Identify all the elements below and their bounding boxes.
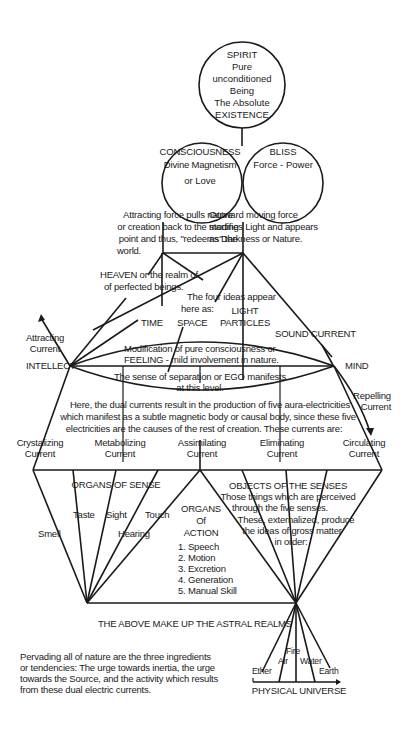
spirit-circle: SPIRIT Pure unconditioned Being The Abso… [199,42,285,128]
text-line: which manifest as a subtle magnetic body… [59,411,356,422]
pervading-text: Pervading all of nature are the three in… [20,651,218,695]
repelling-current-label: Repelling Current [353,390,392,412]
outward-force-text: Outward moving force modifies Light and … [209,209,318,244]
action-item: 4. Generation [178,574,233,585]
text-line: towards the Source, and the activity whi… [20,673,218,684]
heaven-text: HEAVEN or the realm of of perfected bein… [100,269,198,292]
text-line: in order: [274,536,307,547]
label-space: SPACE [177,317,208,328]
element-fire: Fire [286,646,300,656]
organs-of-action-title: Of [196,515,206,526]
current-circulating: Circulating [343,437,386,448]
text-line: Current [30,343,61,354]
dual-currents-text: Here, the dual currents result in the pr… [59,399,356,434]
label-particles: PARTICLES [220,317,270,328]
bliss-title: BLISS [270,146,297,157]
spirit-line: Pure [232,61,252,72]
text-line: from these dual electric currents. [20,684,151,695]
element-water: Water [300,656,322,666]
element-air: Air [278,656,288,666]
attracting-current-label: Attracting Current [26,332,64,354]
label-sound-current: SOUND CURRENT [275,328,356,339]
text-line: Outward moving force [209,209,298,220]
action-item: 5. Manual Skill [178,585,237,596]
consciousness-line: or Love [184,175,216,186]
objects-of-senses: OBJECTS OF THE SENSES Those things which… [220,480,355,547]
element-earth: Earth [319,666,339,676]
astral-realms-label: THE ABOVE MAKE UP THE ASTRAL REALMS [98,618,292,629]
element-ether: Ether [252,666,272,676]
label-intellect: INTELLECT [26,360,76,371]
action-item: 3. Excretion [178,563,226,574]
organs-of-action: ORGANS Of ACTION 1. Speech 2. Motion 3. … [178,503,237,596]
current-label: Current [25,448,56,459]
current-crystalizing: Crystalizing [17,437,64,448]
organs-of-action-title: ORGANS [181,503,221,514]
text-line: Attracting [26,332,64,343]
text-line: electricities are the causes of the rest… [66,423,343,434]
text-line: here as: [181,303,214,314]
text-line: HEAVEN or the realm of [100,269,198,280]
text-line: Those things which are perceived [220,491,355,502]
text-line: at this level. [176,382,223,393]
action-item: 2. Motion [178,552,215,563]
text-line: the ideas of gross matter [242,525,342,536]
sense-taste: Taste [73,509,95,520]
text-line: world. [116,245,141,256]
text-line: of perfected beings. [104,281,183,292]
action-item: 1. Speech [178,541,219,552]
text-line: through the five senses. [232,502,328,513]
current-label: Current [105,448,136,459]
spirit-title: SPIRIT [227,49,258,60]
sense-sight: Sight [106,509,127,520]
text-line: as Darkness or Nature. [209,233,302,244]
text-line: Pervading all of nature are the three in… [20,651,211,662]
text-line: or tendencies: The urge towards inertia,… [20,662,215,673]
current-label: Current [187,448,218,459]
text-line: These, externalized, produce [238,514,355,525]
text-line: modifies Light and appears [209,221,318,232]
organs-of-action-title: ACTION [184,527,219,538]
current-label: Current [267,448,298,459]
sense-hearing: Hearing [118,528,150,539]
spirit-line: EXISTENCE [215,109,269,120]
label-mind: MIND [345,360,369,371]
sense-touch: Touch [145,509,169,520]
spirit-line: The Absolute [214,97,269,108]
consciousness-title: CONSCIOUSNESS [160,146,241,157]
consciousness-line: Divine Magnetism [164,159,237,170]
currents-row: Crystalizing Current Metabolizing Curren… [17,437,386,459]
ego-text: The sense of separation or EGO manifests… [114,371,287,393]
text-line: Repelling [353,390,391,401]
text-line: Here, the dual currents result in the pr… [70,399,351,410]
feeling-text: Modification of pure consciousness or FE… [124,343,279,365]
label-time: TIME [141,317,163,328]
text-line: The four ideas appear [187,291,276,302]
text-line: FEELING - mild involvement in nature. [124,354,279,365]
spirit-line: unconditioned [212,73,271,84]
cosmology-diagram: SPIRIT Pure unconditioned Being The Abso… [0,0,406,739]
four-ideas: The four ideas appear here as: TIME SPAC… [141,291,356,339]
spirit-line: Being [230,85,254,96]
current-assimilating: Assimilating [178,437,226,448]
text-line: Modification of pure consciousness or [124,343,276,354]
objects-of-senses-title: OBJECTS OF THE SENSES [229,480,347,491]
label-light: LIGHT [232,305,259,316]
sense-smell: Smell [38,528,61,539]
current-metabolizing: Metabolizing [95,437,146,448]
text-line: The sense of separation or EGO manifests [114,371,287,382]
current-label: Current [349,448,380,459]
organs-of-sense-title: ORGANS OF SENSE [72,479,161,490]
current-eliminating: Eliminating [260,437,304,448]
physical-universe-label: PHYSICAL UNIVERSE [252,685,346,696]
text-line: Current [361,401,392,412]
bliss-line: Force - Power [253,159,313,170]
